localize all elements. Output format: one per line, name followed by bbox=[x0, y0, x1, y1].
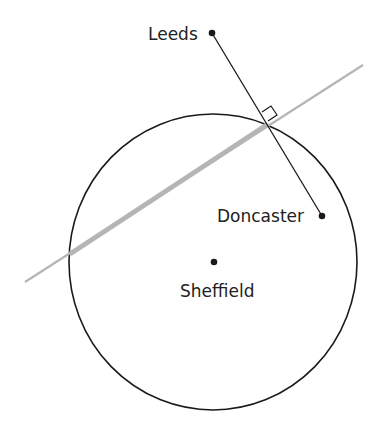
doncaster-label: Doncaster bbox=[217, 206, 304, 226]
point-doncaster: Doncaster bbox=[217, 206, 325, 226]
leeds-dot bbox=[209, 30, 216, 37]
leeds-doncaster-line bbox=[212, 33, 322, 216]
doncaster-dot bbox=[319, 213, 326, 220]
chord-segment bbox=[70, 124, 268, 254]
diagram-canvas: Leeds Doncaster Sheffield bbox=[0, 0, 382, 431]
point-leeds: Leeds bbox=[148, 24, 215, 44]
sheffield-label: Sheffield bbox=[180, 281, 254, 301]
leeds-label: Leeds bbox=[148, 24, 198, 44]
sheffield-dot bbox=[211, 259, 218, 266]
point-sheffield: Sheffield bbox=[180, 259, 254, 301]
